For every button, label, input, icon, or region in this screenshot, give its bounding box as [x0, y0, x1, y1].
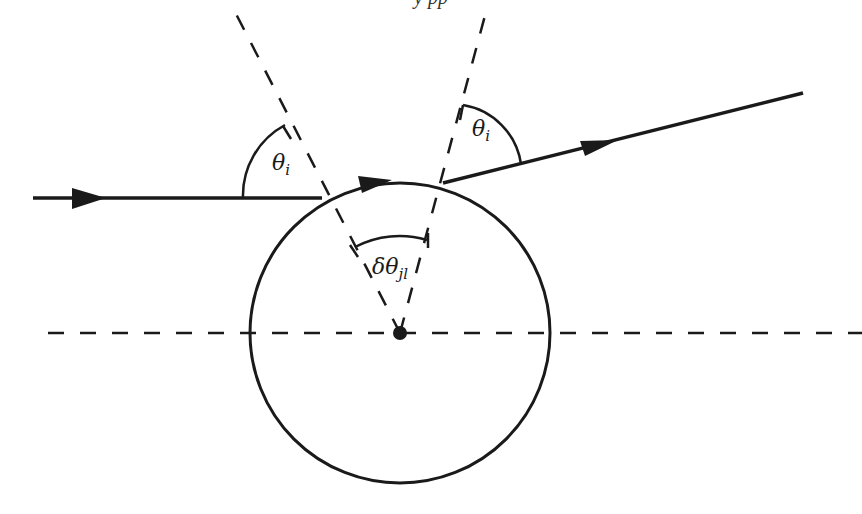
angle-arc-left-tick [283, 126, 291, 139]
incoming-arrow-head-icon [72, 188, 106, 209]
delta-angle-arc [355, 236, 427, 247]
theta-symbol: θ [272, 150, 285, 175]
outgoing-ray [443, 93, 803, 183]
angle-arc-right-tick [460, 105, 463, 120]
theta-i-label-left: θi [272, 152, 290, 178]
subscript-i: i [285, 161, 290, 179]
outgoing-arrow-head-icon [580, 140, 618, 156]
ray-deflection-diagram [0, 0, 862, 514]
subscript-i: i [485, 127, 490, 145]
delta-theta-jl-label: δθjl [372, 256, 408, 282]
theta-symbol: θ [472, 116, 485, 141]
subscript-jl: jl [399, 265, 408, 283]
theta-i-label-right: θi [472, 118, 490, 144]
delta-theta-symbol: δθ [372, 254, 399, 279]
normal-line-right-dashed [400, 8, 487, 333]
